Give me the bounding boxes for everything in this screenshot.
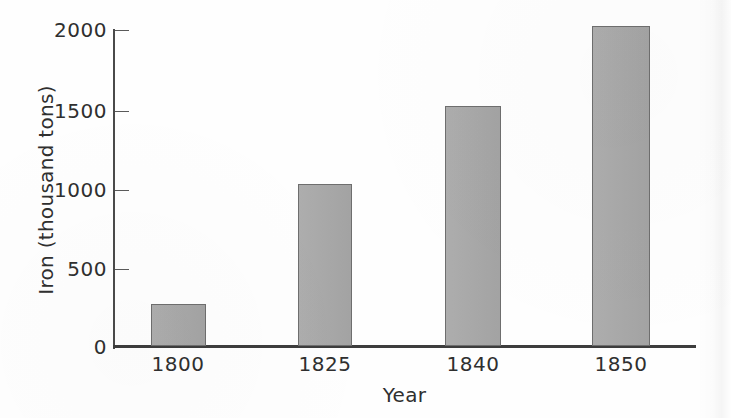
x-tick-label-1825: 1825 (280, 352, 370, 376)
x-axis-title: Year (113, 383, 696, 407)
y-tick-label: 0 (37, 335, 107, 359)
x-tick-label-1840: 1840 (428, 352, 518, 376)
bar-1840 (445, 106, 501, 346)
bar-chart: 2000 1500 1000 500 0 1800 1825 1840 1850 (0, 0, 731, 418)
chart-page: 2000 1500 1000 500 0 1800 1825 1840 1850 (0, 0, 731, 418)
y-tick-label: 2000 (37, 18, 107, 42)
y-axis-line (113, 29, 115, 349)
y-tick-mark (115, 111, 129, 112)
y-tick-mark (115, 269, 129, 270)
y-tick-mark (115, 30, 129, 31)
y-axis-title: Iron (thousand tons) (34, 75, 58, 305)
bar-1825 (298, 184, 352, 346)
bar-1800 (151, 304, 206, 346)
x-tick-label-1850: 1850 (576, 352, 666, 376)
y-tick-mark (115, 190, 129, 191)
bar-1850 (592, 26, 650, 346)
x-tick-label-1800: 1800 (133, 352, 223, 376)
